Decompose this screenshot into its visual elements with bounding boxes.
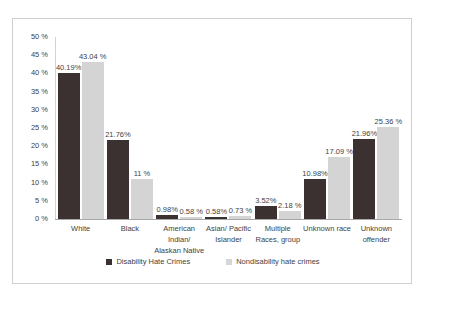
y-axis-tick-label: 50 %	[31, 33, 48, 41]
bar-group: 21.76%11 %	[105, 37, 154, 219]
legend-swatch-icon	[226, 259, 232, 265]
y-axis-tick-label: 40 %	[31, 69, 48, 77]
legend-label: Disability Hate Crimes	[116, 257, 190, 266]
bar[interactable]: 0.58%	[205, 217, 227, 219]
y-axis-tick-label: 20 %	[31, 142, 48, 150]
chart-legend: Disability Hate CrimesNondisability hate…	[13, 257, 413, 266]
legend-swatch-icon	[106, 259, 112, 265]
bar[interactable]: 2.18 %	[279, 211, 301, 219]
bar-value-label: 11 %	[134, 169, 151, 178]
y-axis-tick-label: 15 %	[31, 160, 48, 168]
bar-value-label: 10.98%	[302, 169, 327, 178]
bar[interactable]: 0.73 %	[229, 216, 251, 219]
bar-group: 21.96%25.36 %	[352, 37, 401, 219]
bar-value-label: 25.36 %	[375, 117, 403, 126]
legend-label: Nondisability hate crimes	[236, 257, 319, 266]
plot-area: 40.19%43.04 %21.76%11 %0.98%0.58 %0.58%0…	[56, 37, 401, 219]
y-axis-tick-label: 45 %	[31, 51, 48, 59]
y-axis-tick-label: 25 %	[31, 124, 48, 132]
bar[interactable]: 0.58 %	[180, 217, 202, 219]
legend-item[interactable]: Nondisability hate crimes	[226, 257, 319, 266]
bars-row: 21.76%11 %	[105, 37, 154, 219]
bars-row: 3.52%2.18 %	[253, 37, 302, 219]
bar-value-label: 21.76%	[105, 130, 130, 139]
bar[interactable]: 3.52%	[255, 206, 277, 219]
y-axis-tick-label: 5 %	[35, 197, 48, 205]
bar-value-label: 0.58 %	[180, 207, 203, 216]
bar[interactable]: 25.36 %	[377, 127, 399, 219]
bar-group: 0.58%0.73 %	[204, 37, 253, 219]
bar[interactable]: 40.19%	[58, 73, 80, 219]
bar-value-label: 0.58%	[206, 207, 227, 216]
x-axis-line	[55, 219, 402, 220]
bar-group: 10.98%17.09 %	[302, 37, 351, 219]
bars-row: 40.19%43.04 %	[56, 37, 105, 219]
y-axis-tick-label: 30 %	[31, 106, 48, 114]
bars-row: 10.98%17.09 %	[302, 37, 351, 219]
bar-value-label: 40.19%	[56, 63, 81, 72]
bar-value-label: 0.73 %	[229, 206, 252, 215]
bars-row: 0.58%0.73 %	[204, 37, 253, 219]
bar[interactable]: 0.98%	[156, 215, 178, 219]
x-axis-category-label: Unknown offender	[346, 223, 407, 245]
chart-frame: 0 %5 %10 %15 %20 %25 %30 %35 %40 %45 %50…	[12, 18, 412, 284]
bar-value-label: 0.98%	[157, 205, 178, 214]
bar-value-label: 2.18 %	[278, 201, 301, 210]
bar[interactable]: 21.76%	[107, 140, 129, 219]
bar-value-label: 3.52%	[255, 196, 276, 205]
bar-group: 3.52%2.18 %	[253, 37, 302, 219]
bars-row: 21.96%25.36 %	[352, 37, 401, 219]
bars-row: 0.98%0.58 %	[155, 37, 204, 219]
bar-group: 40.19%43.04 %	[56, 37, 105, 219]
bar[interactable]: 17.09 %	[328, 157, 350, 219]
bar-value-label: 21.96%	[352, 129, 377, 138]
bar-group: 0.98%0.58 %	[155, 37, 204, 219]
bar[interactable]: 43.04 %	[82, 62, 104, 219]
y-axis-tick-label: 35 %	[31, 88, 48, 96]
y-axis-tick-label: 0 %	[35, 215, 48, 223]
bar-value-label: 17.09 %	[325, 147, 353, 156]
bar[interactable]: 10.98%	[304, 179, 326, 219]
y-axis-tick-label: 10 %	[31, 179, 48, 187]
bar[interactable]: 11 %	[131, 179, 153, 219]
y-axis-tick-labels: 0 %5 %10 %15 %20 %25 %30 %35 %40 %45 %50…	[13, 19, 53, 285]
legend-item[interactable]: Disability Hate Crimes	[106, 257, 190, 266]
bar-value-label: 43.04 %	[79, 52, 107, 61]
bar[interactable]: 21.96%	[353, 139, 375, 219]
